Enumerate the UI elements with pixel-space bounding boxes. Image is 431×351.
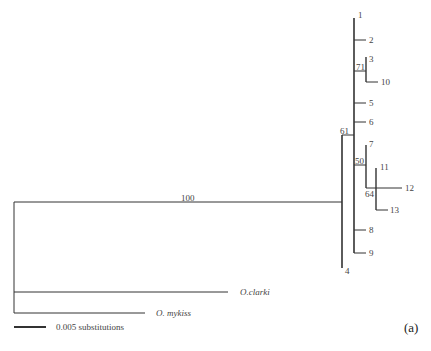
tip-label-9: 9 — [369, 248, 374, 258]
tip-label-mykiss: O. mykiss — [156, 308, 191, 318]
tip-label-6: 6 — [369, 117, 374, 127]
support-value-64: 64 — [365, 189, 374, 199]
support-value-71: 71 — [356, 62, 365, 72]
support-value-61: 61 — [340, 126, 349, 136]
tip-label-8: 8 — [369, 225, 374, 235]
tip-label-13: 13 — [390, 205, 399, 215]
panel-label: (a) — [404, 320, 418, 336]
tip-label-2: 2 — [369, 35, 374, 45]
tip-label-12: 12 — [405, 183, 414, 193]
support-value-100: 100 — [181, 193, 195, 203]
tip-label-3: 3 — [369, 54, 374, 64]
tip-label-10: 10 — [381, 77, 390, 87]
tip-label-7: 7 — [369, 139, 374, 149]
support-value-50: 50 — [355, 156, 364, 166]
scale-bar-label: 0.005 substitutions — [56, 322, 124, 332]
tip-label-11: 11 — [380, 162, 389, 172]
tip-label-clarki: O.clarki — [240, 287, 270, 297]
tip-label-1: 1 — [358, 10, 363, 20]
tip-label-4: 4 — [345, 266, 350, 276]
phylogenetic-tree — [0, 0, 431, 351]
tip-label-5: 5 — [369, 98, 374, 108]
